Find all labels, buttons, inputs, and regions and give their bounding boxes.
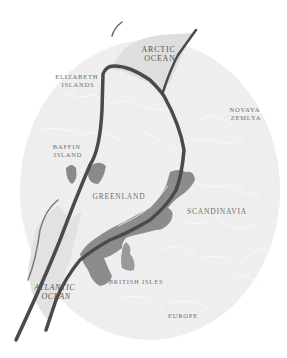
label-greenland: GREENLAND: [92, 192, 145, 201]
label-arctic-ocean: ARCTIC OCEAN: [142, 45, 179, 63]
label-scandinavia: SCANDINAVIA: [187, 207, 247, 216]
map: ARCTIC OCEAN ELIZABETH ISLANDS NOVAYA ZE…: [0, 0, 287, 358]
label-novaya-zemlya: NOVAYA ZEMLYA: [230, 106, 263, 121]
rift-line-top-hook: [112, 22, 122, 36]
label-baffin-island: BAFFIN ISLAND: [53, 143, 83, 158]
label-british-isles: BRITISH ISLES: [109, 278, 164, 285]
label-elizabeth-islands: ELIZABETH ISLANDS: [55, 73, 100, 88]
label-europe: EUROPE: [168, 312, 198, 319]
